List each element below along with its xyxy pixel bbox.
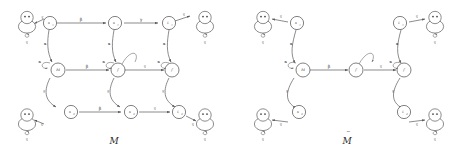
edge-label-alpha-v: α (396, 42, 399, 46)
loop-label-tau: τ (434, 137, 437, 142)
hook-f1 (122, 53, 136, 64)
edge-s1-M (48, 30, 52, 62)
edge-rs1-terminal (272, 19, 288, 22)
figure-canvas: τ τ τ τ τ β (0, 0, 461, 155)
edge-t1-terminal (175, 16, 190, 21)
loop-label-tau: τ (262, 137, 265, 142)
edge-label-beta: β (328, 64, 331, 69)
panel-right: τ τ τ τ τ τ (254, 11, 443, 146)
edge-label-tau: τ (280, 14, 283, 19)
caption-right: M (341, 136, 352, 146)
state-node-rt2[interactable]: t 2 (397, 105, 410, 118)
loop-label-tau: τ (262, 40, 265, 45)
loop-label-tau: τ (26, 40, 29, 45)
edge-label-beta: β (80, 17, 83, 22)
state-node-rs2[interactable]: s 2 (292, 105, 305, 118)
terminal-node-bottom-right[interactable]: τ (426, 109, 443, 142)
edge-rt1-terminal (409, 19, 425, 22)
edge-label-gamma: γ (140, 17, 143, 22)
terminal-node-top-right[interactable]: τ (426, 11, 443, 44)
edge-f2-t2 (165, 78, 175, 107)
loop-label-tau: τ (204, 137, 207, 142)
state-node-s3[interactable]: s 2 (64, 105, 77, 118)
state-label: s (129, 110, 131, 114)
edge-t1-f2 (167, 30, 171, 62)
panel-left: τ τ τ τ τ β (18, 11, 213, 146)
edge-rM-rs2 (287, 78, 296, 108)
terminal-node-top-left[interactable]: τ (18, 11, 35, 44)
state-label: s (297, 110, 299, 114)
edge-M-s3 (46, 78, 56, 107)
state-label: s (48, 21, 50, 25)
self-loop-label-alpha: α (39, 60, 42, 64)
edge-label-gamma-v: γ (107, 89, 109, 93)
edge-rt1-rf1 (398, 30, 401, 63)
loop-label-tau: τ (26, 137, 29, 142)
loop-label-tau: τ (434, 40, 437, 45)
self-loop-label-alpha: α (390, 60, 393, 64)
state-node-rf1[interactable]: f (397, 63, 411, 77)
state-label: s (69, 110, 71, 114)
edge-label-tau: τ (280, 122, 283, 127)
state-node-rs1[interactable]: s 1 (290, 16, 303, 29)
caption-left: M (108, 136, 119, 146)
state-node-s1[interactable]: s 1 (43, 16, 56, 29)
state-label: M (55, 68, 60, 72)
self-loop-alpha-M (42, 62, 50, 68)
state-node-M[interactable]: M (51, 63, 65, 77)
state-node-s4[interactable]: s 2 (124, 105, 137, 118)
edge-label-gamma-v: γ (162, 89, 164, 93)
edge-label-gamma-v: γ (286, 89, 288, 93)
edge-label-tau: τ (192, 122, 195, 127)
edge-rs1-rM (292, 30, 296, 63)
edge-label-alpha-v: α (108, 42, 111, 46)
edge-label-tau: τ (380, 64, 383, 69)
self-loop-label-alpha: α (285, 60, 288, 64)
edge-rf1-rt2 (393, 78, 402, 108)
state-node-s2[interactable]: s 1 (108, 16, 121, 29)
terminal-node-bottom-left[interactable]: τ (254, 109, 271, 142)
edge-s2-f1 (112, 30, 116, 62)
edge-label-tau: τ (416, 14, 419, 19)
edge-label-alpha-v: α (163, 42, 166, 46)
loop-label-tau: τ (204, 40, 207, 45)
self-loop-label-alpha: α (103, 60, 106, 64)
automata-figure: τ τ τ τ τ β (0, 0, 461, 155)
edge-s1-terminal (35, 19, 45, 24)
terminal-node-top-left[interactable]: τ (254, 11, 271, 44)
edge-label-tau: τ (154, 106, 157, 111)
edge-f1-s4 (110, 78, 120, 107)
edge-label-tau: τ (144, 64, 147, 69)
self-loop-alpha-rM (288, 62, 296, 68)
edge-label-beta: β (86, 64, 89, 69)
state-label: s (295, 21, 297, 25)
edge-t2-terminal (186, 116, 196, 121)
edge-label-tau: τ (183, 12, 186, 17)
edge-label-tau: τ (416, 122, 419, 127)
state-node-f2[interactable]: f (165, 63, 179, 77)
edge-label-gamma-v: γ (392, 89, 394, 93)
state-node-f1[interactable]: f (111, 63, 125, 77)
initial-state-marker (359, 53, 373, 64)
state-node-t1[interactable]: t 1 (162, 16, 175, 29)
state-node-t2[interactable]: t 2 (172, 105, 185, 118)
caption-right-accent: ~ (346, 128, 350, 134)
self-loop-label-alpha: α (158, 60, 161, 64)
edge-label-alpha-v: α (44, 42, 47, 46)
state-node-rt1[interactable]: t 1 (393, 16, 406, 29)
state-node-rf0[interactable]: f (349, 63, 363, 77)
edge-label-beta: β (99, 106, 102, 111)
edge-label-gamma-v: γ (43, 89, 45, 93)
state-label: s (113, 21, 115, 25)
state-label: M (300, 68, 305, 72)
terminal-node-bottom-left[interactable]: τ (18, 109, 35, 142)
terminal-node-top-right[interactable]: τ (196, 11, 213, 44)
terminal-node-bottom-right[interactable]: τ (196, 109, 213, 142)
state-node-rM[interactable]: M (296, 63, 310, 77)
